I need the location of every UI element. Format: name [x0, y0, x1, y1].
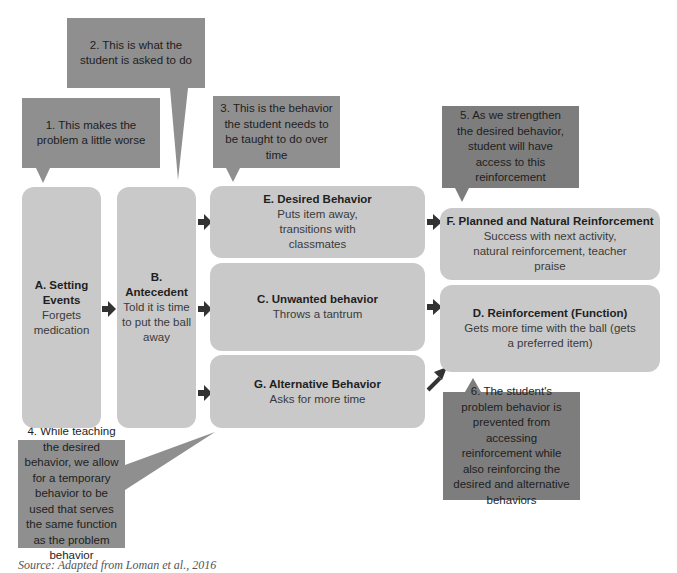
box-e-text: Puts item away, transitions with classma…: [250, 207, 385, 252]
callout-3-text: 3. This is the behavior the student need…: [219, 101, 334, 163]
callout-3-tail: [226, 168, 240, 182]
box-e-desired-behavior: E. Desired Behavior Puts item away, tran…: [210, 186, 425, 258]
callout-5: 5. As we strengthen the desired behavior…: [442, 106, 579, 188]
box-d-reinforcement-function: D. Reinforcement (Function) Gets more ti…: [440, 285, 660, 372]
box-b-antecedent: B. Antecedent Told it is time to put the…: [117, 187, 196, 428]
box-d-text: Gets more time with the ball (gets a pre…: [460, 321, 640, 351]
box-c-title: C. Unwanted behavior: [257, 292, 378, 307]
box-c-text: Throws a tantrum: [273, 307, 362, 322]
box-f-planned-reinforcement: F. Planned and Natural Reinforcement Suc…: [440, 208, 660, 280]
callout-6: 6. The student's problem behavior is pre…: [443, 392, 580, 500]
arrow-a-to-b: [102, 301, 116, 317]
callout-1-tail: [36, 168, 50, 183]
callout-5-text: 5. As we strengthen the desired behavior…: [454, 108, 567, 186]
callout-2-tail: [170, 88, 188, 180]
box-d-title: D. Reinforcement (Function): [473, 306, 628, 321]
box-f-text: Success with next activity, natural rein…: [444, 229, 656, 274]
callout-4: 4. While teaching the desired behavior, …: [18, 440, 125, 548]
box-f-title: F. Planned and Natural Reinforcement: [446, 214, 653, 229]
box-b-title: B. Antecedent: [121, 270, 192, 300]
callout-3: 3. This is the behavior the student need…: [213, 96, 340, 168]
callout-6-text: 6. The student's problem behavior is pre…: [451, 384, 572, 508]
box-b-text: Told it is time to put the ball away: [121, 300, 192, 345]
arrow-g-to-d: [428, 367, 447, 390]
box-a-text: Forgets medication: [28, 308, 95, 338]
box-g-alternative-behavior: G. Alternative Behavior Asks for more ti…: [210, 355, 425, 428]
callout-2: 2. This is what the student is asked to …: [67, 18, 205, 88]
box-a-title: A. Setting Events: [28, 278, 95, 308]
callout-5-tail: [455, 188, 469, 202]
callout-4-text: 4. While teaching the desired behavior, …: [23, 424, 120, 564]
callout-1: 1. This makes the problem a little worse: [22, 98, 160, 168]
box-g-text: Asks for more time: [270, 392, 366, 407]
box-c-unwanted-behavior: C. Unwanted behavior Throws a tantrum: [210, 263, 425, 351]
box-a-setting-events: A. Setting Events Forgets medication: [22, 187, 101, 428]
box-e-title: E. Desired Behavior: [263, 192, 372, 207]
callout-4-tail: [125, 432, 215, 490]
box-g-title: G. Alternative Behavior: [254, 377, 381, 392]
source-caption: Source: Adapted from Loman et al., 2016: [18, 558, 216, 573]
callout-2-text: 2. This is what the student is asked to …: [73, 38, 199, 69]
callout-1-text: 1. This makes the problem a little worse: [28, 118, 154, 149]
